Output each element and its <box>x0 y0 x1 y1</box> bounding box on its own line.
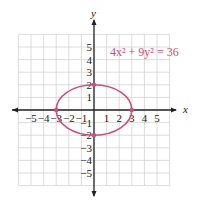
intercept-point <box>92 83 96 87</box>
x-tick-label: 2 <box>116 112 122 124</box>
intercept-point <box>54 108 58 112</box>
equation-label: 4x² + 9y² = 36 <box>110 45 179 59</box>
down-arrow-icon <box>92 191 97 197</box>
x-tick-label: −2 <box>63 112 75 124</box>
y-tick-label: −1 <box>80 117 92 129</box>
y-axis-label: y <box>90 7 96 19</box>
y-tick-label: −3 <box>80 142 92 154</box>
x-tick-label: −5 <box>25 112 37 124</box>
y-tick-label: 4 <box>87 54 93 66</box>
ellipse-graph: −5−4−3−2−112345−5−4−3−2−112345 x y 4x² +… <box>0 0 199 205</box>
y-tick-label: −4 <box>80 154 92 166</box>
left-arrow-icon <box>12 108 18 113</box>
y-tick-label: 3 <box>87 66 93 78</box>
y-tick-label: 5 <box>87 41 93 53</box>
x-tick-label: 4 <box>142 112 148 124</box>
intercept-point <box>130 108 134 112</box>
y-tick-label: −5 <box>80 167 92 179</box>
x-tick-label: 1 <box>104 112 110 124</box>
x-tick-label: −4 <box>38 112 50 124</box>
y-tick-label: 1 <box>87 91 93 103</box>
intercept-point <box>92 133 96 137</box>
up-arrow-icon <box>92 19 97 25</box>
x-tick-label: 5 <box>154 112 160 124</box>
x-axis-label: x <box>182 103 188 115</box>
right-arrow-icon <box>171 108 177 113</box>
